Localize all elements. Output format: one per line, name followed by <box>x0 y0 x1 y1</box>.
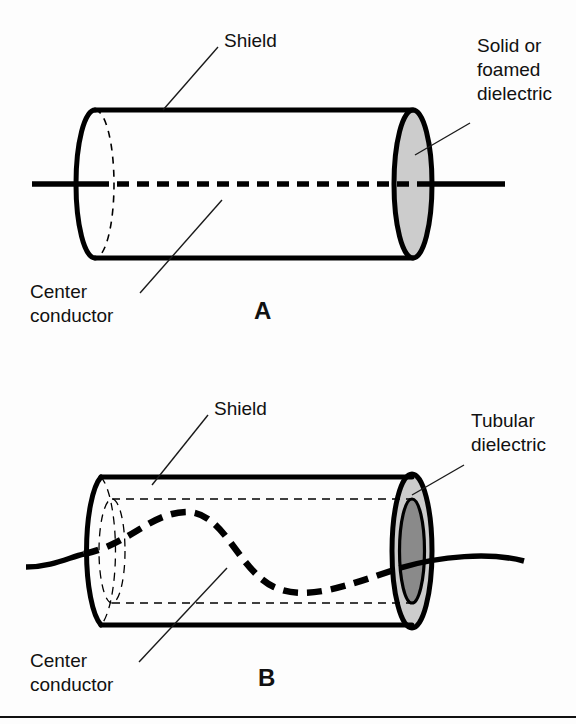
panel-a-dielectric-label-line1: Solid or <box>477 35 542 56</box>
panel-a: Shield Center conductor Solid or foamed … <box>30 30 552 326</box>
panel-a-dielectric-label-line3: dielectric <box>477 83 552 104</box>
panel-b-dielectric-label-line1: Tubular <box>471 410 535 431</box>
panel-a-dielectric-label-line2: foamed <box>477 59 540 80</box>
panel-b-center-conductor-lead-left <box>26 554 84 567</box>
panel-b-center-conductor-leader <box>139 568 227 662</box>
coax-cable-diagram: Shield Center conductor Solid or foamed … <box>0 0 576 724</box>
panel-b: Shield Center conductor Tubular dielectr… <box>26 398 546 695</box>
panel-a-center-conductor-leader <box>140 200 222 293</box>
panel-b-shield-label: Shield <box>214 398 267 419</box>
panel-b-dielectric-label-line2: dielectric <box>471 434 546 455</box>
panel-b-inner-tube-near-rim-hidden <box>99 499 125 603</box>
panel-a-center-conductor-label-line2: conductor <box>30 305 114 326</box>
panel-a-letter: A <box>254 297 271 324</box>
panel-b-center-conductor-label-line1: Center <box>30 650 88 671</box>
panel-b-letter: B <box>258 664 275 691</box>
panel-b-center-conductor-label-line2: conductor <box>30 674 114 695</box>
panel-b-center-conductor-wavy <box>84 512 400 593</box>
panel-a-center-conductor-label-line1: Center <box>30 281 88 302</box>
figure-root: Shield Center conductor Solid or foamed … <box>0 0 576 724</box>
panel-a-shield-label: Shield <box>224 30 277 51</box>
panel-a-shield-leader <box>163 47 218 110</box>
